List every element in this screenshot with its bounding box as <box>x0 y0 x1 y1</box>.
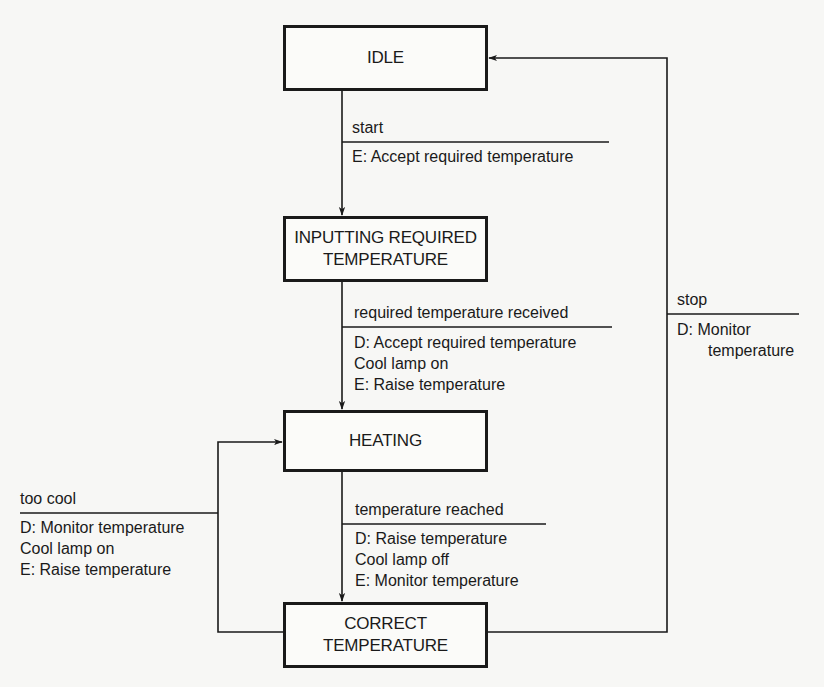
state-inputting-label: INPUTTING REQUIRED TEMPERATURE <box>294 227 476 271</box>
action-label: D: Monitor <box>677 319 794 340</box>
event-label: required temperature received <box>354 302 568 323</box>
transition-actions-start: E: Accept required temperature <box>352 146 573 167</box>
state-idle: IDLE <box>283 25 488 91</box>
transition-actions-too-cool: D: Monitor temperature Cool lamp on E: R… <box>20 517 185 580</box>
event-label: temperature reached <box>355 499 504 520</box>
transition-actions-temperature-reached: D: Raise temperature Cool lamp off E: Mo… <box>355 528 519 591</box>
state-correct-temperature: CORRECT TEMPERATURE <box>283 602 488 668</box>
state-correct-label: CORRECT TEMPERATURE <box>323 613 448 657</box>
action-label: temperature <box>677 340 794 361</box>
event-label: start <box>352 117 383 138</box>
action-label: Cool lamp on <box>354 353 576 374</box>
state-heating-label: HEATING <box>349 430 422 452</box>
state-idle-label: IDLE <box>367 47 404 69</box>
action-label: Cool lamp off <box>355 549 519 570</box>
event-label: stop <box>677 289 707 310</box>
transition-label-start: start <box>352 117 383 138</box>
transition-actions-stop: D: Monitor temperature <box>677 319 794 361</box>
transition-actions-required-received: D: Accept required temperature Cool lamp… <box>354 332 576 395</box>
action-label: D: Monitor temperature <box>20 517 185 538</box>
action-label: E: Monitor temperature <box>355 570 519 591</box>
transition-label-temperature-reached: temperature reached <box>355 499 504 520</box>
transition-label-too-cool: too cool <box>20 488 76 509</box>
event-label: too cool <box>20 488 76 509</box>
state-inputting-required-temperature: INPUTTING REQUIRED TEMPERATURE <box>283 216 488 282</box>
action-label: D: Raise temperature <box>355 528 519 549</box>
action-label: E: Raise temperature <box>354 374 576 395</box>
action-label: E: Accept required temperature <box>352 146 573 167</box>
arrow-too-cool <box>218 442 283 632</box>
state-transition-diagram: IDLE INPUTTING REQUIRED TEMPERATURE HEAT… <box>0 0 824 687</box>
action-label: E: Raise temperature <box>20 559 185 580</box>
transition-label-required-received: required temperature received <box>354 302 568 323</box>
action-label: Cool lamp on <box>20 538 185 559</box>
state-heating: HEATING <box>283 410 488 472</box>
transition-label-stop: stop <box>677 289 707 310</box>
action-label: D: Accept required temperature <box>354 332 576 353</box>
